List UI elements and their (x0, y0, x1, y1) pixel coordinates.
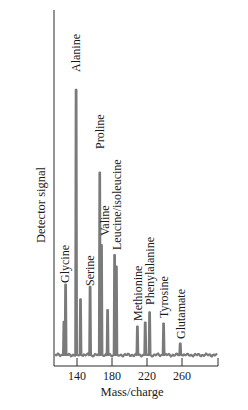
y-axis-title: Detector signal (34, 166, 48, 243)
mass-spectrum-chart: 140180220260 Glycine Alanine Serine Vali… (0, 0, 248, 410)
label-glutamate: Glutamate (174, 289, 188, 339)
x-tick-label: 260 (173, 369, 191, 383)
x-ticks: 140180220260 (68, 358, 191, 383)
x-tick-label: 140 (68, 369, 86, 383)
label-phenylalanine: Phenylalanine (143, 237, 157, 305)
label-alanine: Alanine (69, 34, 83, 72)
x-tick-label: 180 (103, 369, 121, 383)
x-axis-title: Mass/charge (101, 385, 164, 399)
x-tick-label: 220 (138, 369, 156, 383)
label-tyrosine: Tyrosine (157, 276, 171, 318)
label-glycine: Glycine (58, 245, 72, 283)
label-serine: Serine (83, 255, 97, 286)
label-leucine-isoleucine: Leucine/isoleucine (110, 159, 124, 250)
label-proline: Proline (93, 114, 107, 149)
